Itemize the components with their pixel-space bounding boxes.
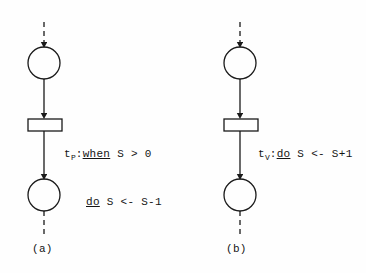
keyword-do-b: do (277, 148, 291, 160)
caption-b: (b) (226, 243, 247, 255)
transition-separator-tv: : (270, 148, 277, 160)
transition-label-tp-line1: tP:when S > 0 (64, 147, 162, 165)
transition-label-tv-line1: tV:do S <- S+1 (258, 147, 353, 165)
place-in-a (28, 47, 60, 79)
place-out-b (224, 179, 256, 211)
place-out-a (28, 179, 60, 211)
transition-separator-tp: : (76, 148, 83, 160)
panel-b-graphics (224, 22, 258, 236)
transition-label-tp-line2: do S <- S-1 (64, 195, 162, 210)
transition-tv (224, 119, 258, 131)
guard-expression-tp: S > 0 (110, 148, 151, 160)
keyword-when: when (83, 148, 111, 160)
petri-net-figure: tP:when S > 0 do S <- S-1 tV:do S <- S+1… (0, 0, 366, 273)
transition-name-tp: t (64, 148, 71, 160)
panel-a-graphics (28, 22, 62, 236)
keyword-do-a: do (86, 196, 100, 208)
action-expression-tp: S <- S-1 (100, 196, 162, 208)
place-in-b (224, 47, 256, 79)
transition-label-tv: tV:do S <- S+1 (258, 117, 353, 195)
transition-tp (28, 119, 62, 131)
caption-a: (a) (32, 243, 53, 255)
action-expression-tv: S <- S+1 (290, 148, 352, 160)
transition-label-tp: tP:when S > 0 do S <- S-1 (64, 117, 162, 240)
transition-name-tv: t (258, 148, 265, 160)
